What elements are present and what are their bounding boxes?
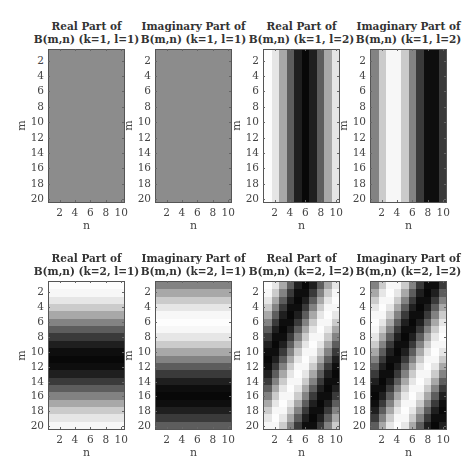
y-tick-mark bbox=[155, 292, 157, 293]
y-tick-mark bbox=[155, 76, 157, 77]
y-tick-label: 4 bbox=[239, 70, 259, 81]
y-tick-mark bbox=[444, 322, 446, 323]
y-tick-label: 20 bbox=[24, 420, 44, 431]
y-tick-mark bbox=[263, 367, 265, 368]
x-tick-mark bbox=[213, 200, 214, 202]
y-tick-label: 20 bbox=[346, 420, 366, 431]
y-tick-label: 14 bbox=[239, 376, 259, 387]
x-tick-mark bbox=[412, 281, 413, 283]
y-tick-mark bbox=[263, 426, 265, 427]
x-axis-label: n bbox=[399, 446, 419, 459]
y-tick-mark bbox=[337, 322, 339, 323]
x-tick-mark bbox=[106, 49, 107, 51]
y-tick-mark bbox=[155, 138, 157, 139]
y-tick-label: 12 bbox=[346, 132, 366, 143]
y-tick-mark bbox=[122, 396, 124, 397]
y-tick-mark bbox=[48, 426, 50, 427]
y-tick-label: 4 bbox=[239, 301, 259, 312]
x-tick-mark bbox=[197, 427, 198, 429]
x-tick-mark bbox=[336, 200, 337, 202]
x-tick-mark bbox=[182, 49, 183, 51]
y-tick-mark bbox=[337, 396, 339, 397]
x-tick-mark bbox=[167, 281, 168, 283]
x-tick-mark bbox=[290, 427, 291, 429]
y-tick-mark bbox=[48, 61, 50, 62]
x-tick-mark bbox=[397, 200, 398, 202]
x-tick-mark bbox=[443, 281, 444, 283]
y-tick-mark bbox=[229, 307, 231, 308]
y-tick-label: 14 bbox=[346, 147, 366, 158]
x-tick-mark bbox=[336, 427, 337, 429]
y-axis-label: m bbox=[337, 348, 350, 362]
y-tick-label: 8 bbox=[24, 331, 44, 342]
y-tick-mark bbox=[444, 122, 446, 123]
y-tick-mark bbox=[370, 122, 372, 123]
x-tick-label: 10 bbox=[218, 207, 238, 218]
x-tick-mark bbox=[428, 281, 429, 283]
x-tick-mark bbox=[90, 281, 91, 283]
y-tick-mark bbox=[155, 61, 157, 62]
x-tick-mark bbox=[321, 427, 322, 429]
y-tick-mark bbox=[48, 322, 50, 323]
y-axis-label: m bbox=[122, 348, 135, 362]
y-tick-mark bbox=[444, 61, 446, 62]
y-tick-mark bbox=[337, 307, 339, 308]
y-tick-mark bbox=[122, 61, 124, 62]
x-tick-mark bbox=[290, 200, 291, 202]
x-tick-mark bbox=[443, 427, 444, 429]
x-tick-mark bbox=[182, 427, 183, 429]
y-tick-label: 2 bbox=[239, 286, 259, 297]
y-tick-mark bbox=[444, 337, 446, 338]
y-tick-label: 4 bbox=[24, 301, 44, 312]
y-tick-label: 14 bbox=[24, 147, 44, 158]
x-tick-label: 10 bbox=[326, 207, 346, 218]
y-tick-mark bbox=[122, 382, 124, 383]
y-tick-mark bbox=[263, 352, 265, 353]
x-tick-mark bbox=[90, 200, 91, 202]
x-tick-mark bbox=[336, 281, 337, 283]
y-tick-label: 18 bbox=[24, 178, 44, 189]
y-tick-mark bbox=[263, 168, 265, 169]
y-tick-mark bbox=[155, 322, 157, 323]
x-tick-mark bbox=[412, 49, 413, 51]
y-tick-mark bbox=[155, 91, 157, 92]
y-tick-mark bbox=[444, 307, 446, 308]
y-axis-label: m bbox=[15, 348, 28, 362]
y-tick-label: 6 bbox=[346, 85, 366, 96]
x-tick-mark bbox=[213, 49, 214, 51]
y-tick-label: 20 bbox=[131, 420, 151, 431]
y-tick-mark bbox=[444, 168, 446, 169]
x-tick-mark bbox=[321, 49, 322, 51]
y-tick-mark bbox=[444, 426, 446, 427]
x-tick-label: 10 bbox=[111, 207, 131, 218]
y-tick-label: 2 bbox=[346, 286, 366, 297]
x-tick-mark bbox=[121, 49, 122, 51]
y-tick-mark bbox=[337, 337, 339, 338]
x-tick-mark bbox=[75, 281, 76, 283]
y-tick-mark bbox=[155, 352, 157, 353]
y-tick-mark bbox=[444, 91, 446, 92]
y-tick-mark bbox=[229, 396, 231, 397]
y-tick-mark bbox=[444, 411, 446, 412]
y-tick-label: 18 bbox=[346, 178, 366, 189]
x-tick-label: 10 bbox=[433, 434, 453, 445]
y-tick-label: 14 bbox=[131, 147, 151, 158]
x-tick-mark bbox=[90, 49, 91, 51]
heatmap-image bbox=[155, 281, 232, 430]
y-tick-mark bbox=[122, 337, 124, 338]
y-tick-mark bbox=[229, 367, 231, 368]
x-axis-label: n bbox=[77, 446, 97, 459]
heatmap-image bbox=[48, 49, 125, 203]
x-tick-mark bbox=[305, 281, 306, 283]
y-tick-label: 18 bbox=[239, 405, 259, 416]
x-tick-mark bbox=[412, 427, 413, 429]
x-tick-mark bbox=[228, 427, 229, 429]
x-axis-label: n bbox=[292, 446, 312, 459]
y-tick-mark bbox=[263, 337, 265, 338]
y-tick-mark bbox=[122, 168, 124, 169]
y-tick-mark bbox=[444, 292, 446, 293]
y-axis-label: m bbox=[230, 348, 243, 362]
y-tick-mark bbox=[48, 337, 50, 338]
y-tick-mark bbox=[229, 168, 231, 169]
x-tick-mark bbox=[106, 427, 107, 429]
